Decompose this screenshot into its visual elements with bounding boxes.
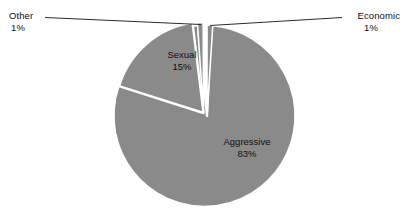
slice-callout-economic: Economic 1% — [357, 10, 400, 33]
slice-label-sexual: Sexual 15% — [152, 49, 212, 73]
slice-callout-other: Other 1% — [8, 10, 33, 33]
pie-chart-canvas — [0, 0, 406, 223]
slice-callout-other-label: Other — [8, 10, 33, 22]
slice-label-sexual-label: Sexual — [152, 49, 212, 61]
slice-callout-economic-label: Economic — [357, 10, 400, 22]
slice-label-aggressive: Aggressive 83% — [207, 136, 287, 160]
pie-chart-figure: Other 1% Economic 1% Sexual 15% Aggressi… — [0, 0, 406, 223]
slice-callout-economic-percent: 1% — [357, 22, 400, 34]
slice-callout-other-percent: 1% — [8, 22, 33, 34]
slice-label-sexual-percent: 15% — [152, 61, 212, 73]
slice-label-aggressive-label: Aggressive — [207, 136, 287, 148]
slice-label-aggressive-percent: 83% — [207, 148, 287, 160]
